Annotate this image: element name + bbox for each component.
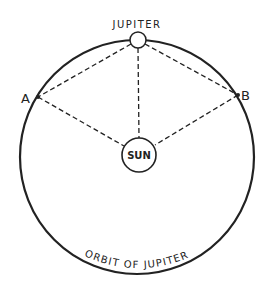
line-b-sun bbox=[155, 95, 238, 145]
line-a-sun bbox=[38, 97, 124, 146]
jupiter-planet bbox=[130, 32, 146, 48]
line-jupiter-sun bbox=[138, 48, 139, 138]
sun-label: SUN bbox=[127, 150, 151, 161]
point-a-label: A bbox=[21, 91, 30, 106]
point-b-label: B bbox=[241, 88, 250, 103]
point-b bbox=[236, 93, 240, 97]
orbit-diagram: JUPITER SUN A B ORBIT OF JUPITER bbox=[0, 0, 271, 289]
jupiter-label: JUPITER bbox=[111, 19, 161, 30]
point-a bbox=[36, 95, 40, 99]
line-jupiter-b bbox=[145, 44, 238, 95]
